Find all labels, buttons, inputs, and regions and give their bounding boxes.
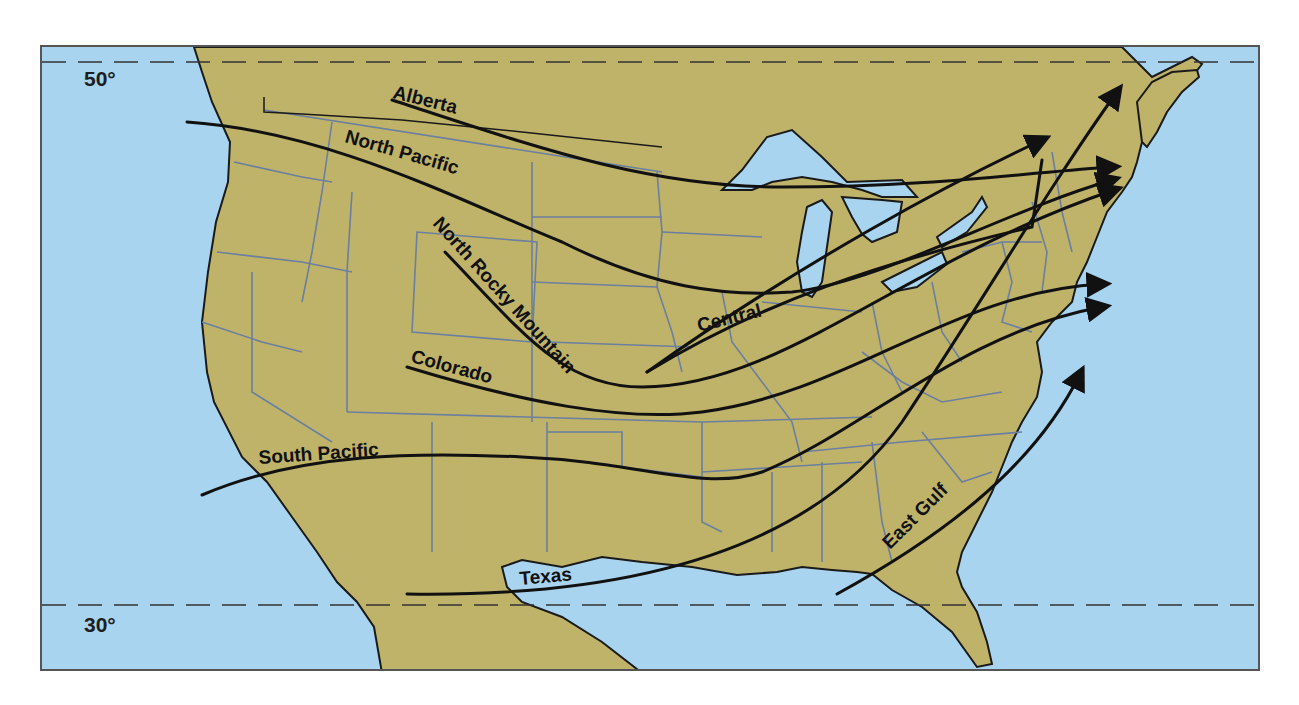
latitude-30-label: 30° xyxy=(84,613,116,636)
storm-track-map: 50° 30° Alberta North Pacific North Rock… xyxy=(40,45,1260,671)
latitude-50-label: 50° xyxy=(84,67,116,90)
